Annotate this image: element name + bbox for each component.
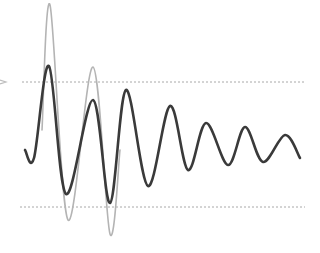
- primary-wave: [25, 66, 300, 203]
- waveform-plot: [0, 0, 320, 253]
- waveform-diagram: [0, 0, 320, 253]
- threshold-arrow-icon: [0, 80, 6, 84]
